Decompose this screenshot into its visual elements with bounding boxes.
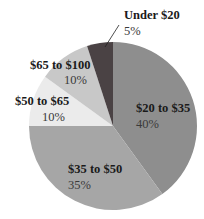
label-50-to-65-category: $50 to $65 [15,95,69,108]
label-35-to-50-percent: 35% [68,179,91,192]
label-20-to-35-category: $20 to $35 [136,102,190,115]
label-35-to-50-category: $35 to $50 [68,163,122,176]
label-50-to-65-percent: 10% [42,111,65,124]
label-under-20-category: Under $20 [124,9,180,22]
label-65-to-100-percent: 10% [64,74,87,87]
label-20-to-35-percent: 40% [136,118,159,131]
label-under-20-percent: 5% [124,25,141,38]
label-65-to-100-category: $65 to $100 [30,59,90,72]
